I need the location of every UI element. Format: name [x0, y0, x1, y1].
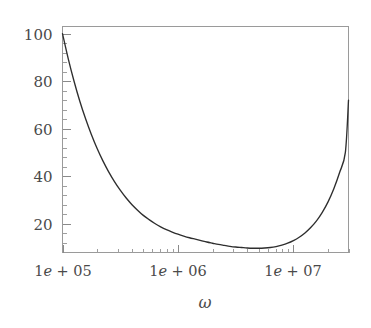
y-axis-tick-label: 100 [24, 26, 53, 44]
x-axis-tick-label: 1e + 07 [264, 263, 322, 279]
chart-figure: 10080604020 1e + 051e + 061e + 07 ω [0, 0, 371, 328]
chart-canvas: 10080604020 1e + 051e + 061e + 07 ω [0, 0, 371, 328]
x-axis-tick-labels: 1e + 051e + 061e + 07 [34, 263, 322, 279]
figure-background [0, 0, 371, 328]
y-axis-tick-label: 60 [33, 121, 52, 139]
x-axis-tick-label: 1e + 05 [34, 263, 92, 279]
x-axis-tick-label: 1e + 06 [149, 263, 207, 279]
y-axis-tick-label: 20 [33, 216, 52, 234]
y-axis-tick-label: 80 [33, 73, 52, 91]
y-axis-tick-label: 40 [33, 168, 52, 186]
x-axis-title: ω [198, 293, 211, 312]
